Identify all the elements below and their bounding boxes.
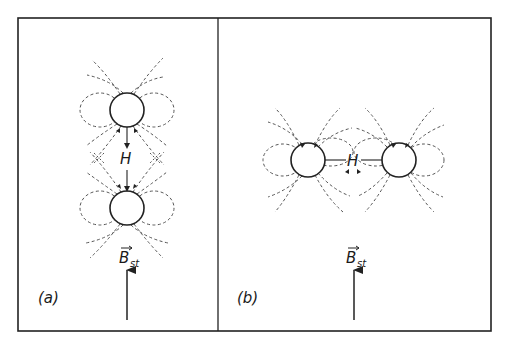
svg-text:B: B — [119, 249, 129, 267]
field-label-b: B st — [346, 246, 367, 269]
svg-text:B: B — [346, 249, 356, 267]
svg-text:st: st — [130, 258, 140, 269]
field-label-a: B st — [119, 246, 140, 269]
sphere-icon — [110, 93, 144, 127]
figure-canvas: H B st (a) — [0, 0, 505, 349]
panel-label-a: (a) — [38, 289, 59, 307]
center-label-b: H — [347, 152, 358, 170]
sphere-icon — [382, 143, 416, 177]
sphere-icon — [110, 191, 144, 225]
svg-text:st: st — [357, 258, 367, 269]
center-label-a: H — [120, 150, 131, 168]
panel-label-b: (b) — [237, 289, 258, 307]
sphere-icon — [291, 143, 325, 177]
panel-a-solid — [110, 93, 144, 320]
